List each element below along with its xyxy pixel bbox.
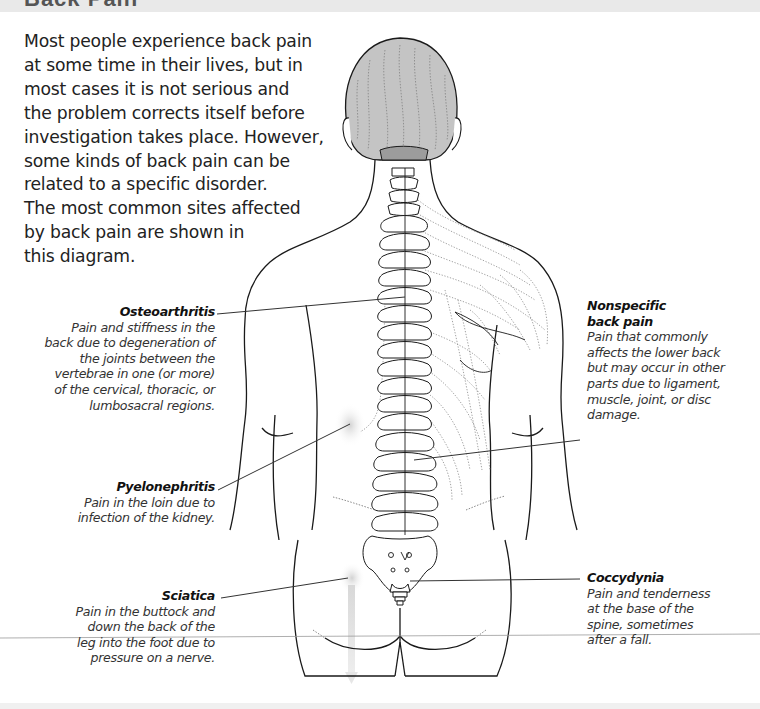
footer-band bbox=[0, 703, 760, 709]
label-osteoarthritis: Osteoarthritis Pain and stiffness in the… bbox=[10, 304, 215, 413]
label-title: Sciatica bbox=[10, 588, 215, 604]
label-title: Nonspecific bbox=[587, 298, 760, 314]
sciatica-leader bbox=[221, 578, 348, 598]
label-pyelonephritis: Pyelonephritis Pain in the loin due to i… bbox=[10, 479, 215, 526]
pyelonephritis-leader bbox=[218, 424, 350, 490]
label-coccydynia: Coccydynia Pain and tenderness at the ba… bbox=[587, 570, 760, 648]
label-title: Osteoarthritis bbox=[10, 304, 215, 320]
head bbox=[343, 38, 461, 160]
nonspecific-leader bbox=[414, 440, 580, 460]
label-title: back pain bbox=[587, 314, 760, 330]
osteoarthritis-leader bbox=[217, 297, 405, 314]
label-nonspecific-back-pain: Nonspecific back pain Pain that commonly… bbox=[587, 298, 760, 423]
kidney-pain-glow bbox=[334, 403, 366, 447]
label-title: Pyelonephritis bbox=[10, 479, 215, 495]
right-scapula-outline bbox=[455, 312, 525, 372]
sciatica-pain-path bbox=[348, 585, 355, 675]
label-title: Coccydynia bbox=[587, 570, 760, 586]
coccydynia-leader bbox=[410, 579, 580, 581]
label-sciatica: Sciatica Pain in the buttock and down th… bbox=[10, 588, 215, 666]
